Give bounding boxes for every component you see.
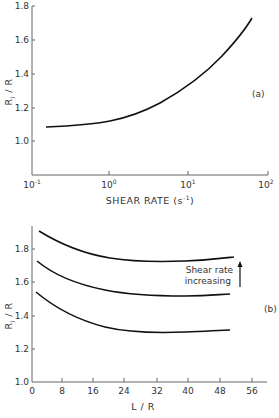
xtick-b-40: 40 [182, 386, 194, 396]
y-axis-title-a: Rj / R [3, 78, 16, 105]
panel-b: 1.8 1.6 1.4 1.2 1.0 0 8 16 24 32 40 48 5… [3, 226, 277, 412]
x-axis-title-a: SHEAR RATE (s-1) [106, 194, 194, 206]
panel-label-b: (b) [264, 304, 277, 314]
ytick-a-1.6: 1.6 [15, 35, 30, 45]
ytick-b-1.6: 1.6 [15, 277, 30, 287]
ytick-a-1.2: 1.2 [15, 103, 29, 113]
xtick-b-0: 0 [29, 386, 35, 396]
xtick-a-0.1: 10-1 [23, 178, 41, 190]
xtick-a-100: 102 [258, 178, 273, 190]
ytick-a-1.4: 1.4 [15, 69, 30, 79]
annotation-line1: Shear rate [186, 265, 234, 275]
ytick-b-1.0: 1.0 [15, 377, 30, 387]
panel-a: 1.8 1.6 1.4 1.2 1.0 10-1 100 101 102 SHE… [3, 1, 274, 206]
ytick-a-1.8: 1.8 [15, 1, 30, 11]
xtick-b-16: 16 [87, 386, 99, 396]
ytick-b-1.2: 1.2 [15, 344, 29, 354]
curve-a [46, 18, 252, 127]
ytick-a-1.0: 1.0 [15, 136, 30, 146]
curve-b-low [36, 292, 230, 332]
arrow-up-icon [238, 261, 243, 287]
ytick-b-1.8: 1.8 [15, 244, 30, 254]
ytick-b-1.4: 1.4 [15, 311, 30, 321]
curve-b-high [39, 231, 234, 262]
x-axis-title-b: L / R [131, 401, 155, 412]
xtick-b-8: 8 [59, 386, 65, 396]
xtick-b-56: 56 [246, 386, 258, 396]
annotation-line2: increasing [185, 276, 231, 286]
panel-label-a: (a) [252, 89, 265, 99]
x-ticks-a: 10-1 100 101 102 [23, 171, 274, 190]
xtick-a-1: 100 [101, 178, 116, 190]
figure: 1.8 1.6 1.4 1.2 1.0 10-1 100 101 102 SHE… [0, 0, 279, 418]
xtick-b-24: 24 [118, 386, 130, 396]
xtick-b-48: 48 [214, 386, 226, 396]
xtick-b-32: 32 [151, 386, 162, 396]
x-ticks-b: 0 8 16 24 32 40 48 56 [29, 378, 258, 396]
xtick-a-10: 101 [180, 178, 195, 190]
